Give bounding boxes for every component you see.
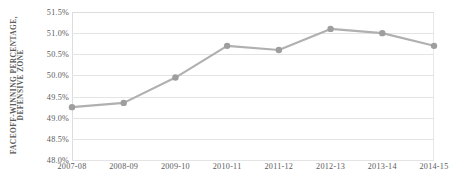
x-axis-tick-label: 2014-15: [419, 162, 448, 171]
x-axis-tick-label: 2007-08: [57, 162, 86, 171]
data-point-marker: 2010-11: 50.7%: [224, 43, 230, 49]
data-point-marker: 2014-15: 50.7%: [431, 43, 437, 49]
data-point-marker: 2012-13: 51.1%: [327, 26, 333, 32]
x-axis-tick-label: 2008-09: [109, 162, 138, 171]
y-axis-tick-label: 50.0%: [47, 71, 69, 80]
y-axis-tick-label: 49.0%: [47, 113, 69, 122]
y-axis-tick-label: 51.5%: [47, 8, 69, 17]
data-point-marker: 2009-10: 49.95%: [172, 74, 178, 80]
data-point-marker: 2013-14: 51.0%: [379, 30, 385, 36]
data-point-marker: 2008-09: 49.35%: [121, 100, 127, 106]
data-point-marker: 2011-12: 50.6%: [276, 47, 282, 53]
y-axis-tick-label: 50.5%: [47, 50, 69, 59]
y-axis-title: FACEOFF-WINNING PERCENTAGE, DEFENSIVE ZO…: [0, 0, 34, 170]
series-line: [72, 29, 434, 107]
x-axis-tick-label: 2012-13: [316, 162, 345, 171]
y-axis-tick-label: 49.5%: [47, 92, 69, 101]
x-axis-tick-label: 2010-11: [213, 162, 242, 171]
series-line-faceoff-pct: 2007-08: 49.25%2008-09: 49.35%2009-10: 4…: [72, 12, 434, 160]
x-axis-tick-labels: 2007-082008-092009-102010-112011-122012-…: [72, 162, 434, 182]
y-axis-tick-labels: 51.5%51.0%50.5%50.0%49.5%49.0%48.5%48.0%: [33, 0, 71, 184]
x-axis-tick-label: 2009-10: [161, 162, 190, 171]
data-point-marker: 2007-08: 49.25%: [69, 104, 75, 110]
grid-line: [72, 160, 434, 161]
y-axis-title-line-2: DEFENSIVE ZONE: [17, 49, 24, 120]
y-axis-tick-label: 51.0%: [47, 29, 69, 38]
x-axis-tick-label: 2011-12: [264, 162, 293, 171]
plot-area: 2007-08: 49.25%2008-09: 49.35%2009-10: 4…: [72, 12, 434, 160]
y-axis-tick-label: 48.5%: [47, 134, 69, 143]
x-axis-tick-label: 2013-14: [368, 162, 397, 171]
